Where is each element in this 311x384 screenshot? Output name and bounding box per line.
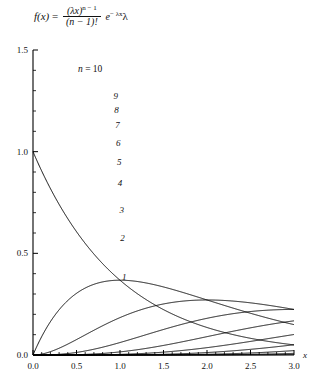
x-tick-label: 0.5 bbox=[71, 361, 83, 371]
chart-figure: f(x) = (λx)n − 1 (n − 1)! e− λxλ n = 10 … bbox=[0, 0, 311, 384]
curve-labels: 123456789 bbox=[113, 91, 126, 281]
density-curve-n6 bbox=[33, 335, 294, 356]
density-curve-n4 bbox=[33, 309, 294, 355]
x-tick-label: 1.5 bbox=[158, 361, 170, 371]
curve-label-n3: 3 bbox=[118, 205, 124, 215]
x-tick-label: 2.5 bbox=[245, 361, 257, 371]
curve-label-n5: 5 bbox=[117, 157, 122, 167]
density-curves bbox=[33, 152, 294, 355]
curve-label-n7: 7 bbox=[115, 120, 120, 130]
curve-label-n1: 1 bbox=[122, 272, 127, 282]
curve-label-n6: 6 bbox=[116, 138, 121, 148]
density-curve-n10 bbox=[33, 354, 294, 355]
curve-label-n9: 9 bbox=[113, 91, 118, 101]
axis-tick-labels: 0.00.51.01.52.02.53.00.00.51.01.5 bbox=[17, 45, 300, 371]
y-tick-label: 1.0 bbox=[17, 147, 29, 157]
curve-label-n8: 8 bbox=[114, 105, 119, 115]
x-tick-label: 1.0 bbox=[114, 361, 126, 371]
y-tick-label: 0.5 bbox=[17, 248, 29, 258]
x-tick-label: 3.0 bbox=[288, 361, 300, 371]
chart-canvas: 0.00.51.01.52.02.53.00.00.51.01.5 123456… bbox=[0, 0, 311, 384]
density-curve-n1 bbox=[33, 152, 294, 345]
curve-label-n4: 4 bbox=[118, 178, 123, 188]
x-tick-label: 0.0 bbox=[27, 361, 39, 371]
x-tick-label: 2.0 bbox=[201, 361, 213, 371]
density-curve-n2 bbox=[33, 280, 294, 355]
density-curve-n5 bbox=[33, 321, 294, 355]
y-tick-label: 0.0 bbox=[17, 350, 29, 360]
curve-label-n2: 2 bbox=[120, 233, 125, 243]
y-tick-label: 1.5 bbox=[17, 45, 29, 55]
x-axis-label: x bbox=[302, 350, 307, 360]
axis-names: x bbox=[302, 350, 307, 360]
